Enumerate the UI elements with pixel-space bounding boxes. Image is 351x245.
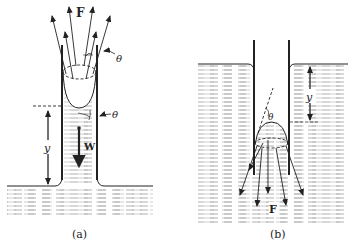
capillarity-diagram: F θ θ y W (a) bbox=[0, 0, 351, 245]
angle-label-top-a: θ bbox=[116, 53, 122, 64]
free-surface-right-a bbox=[97, 178, 153, 186]
free-surface-left-a bbox=[7, 178, 62, 186]
force-label-a: F bbox=[76, 6, 85, 20]
panel-a: F θ θ y W (a) bbox=[7, 6, 153, 241]
weight-label: W bbox=[83, 141, 96, 152]
caption-b: (b) bbox=[270, 228, 286, 241]
force-label-b: F bbox=[269, 203, 277, 216]
angle-pointer-side-a bbox=[100, 114, 111, 116]
angle-label-b: θ bbox=[268, 112, 274, 122]
height-label-a: y bbox=[43, 142, 51, 155]
meniscus-rim-ellipse-a bbox=[63, 65, 96, 79]
angle-label-side-a: θ bbox=[112, 109, 118, 120]
caption-a: (a) bbox=[72, 228, 87, 241]
height-label-b: y bbox=[305, 91, 313, 104]
panel-b: θ F y (b) bbox=[198, 40, 348, 241]
angle-pointer-top-a bbox=[104, 51, 115, 54]
